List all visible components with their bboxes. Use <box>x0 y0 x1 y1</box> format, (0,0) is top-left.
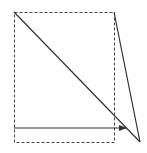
diagonal-line <box>14 12 140 142</box>
dashed-rectangle <box>15 13 115 143</box>
slanted-right-edge-line <box>114 12 140 142</box>
diagram-svg <box>0 0 147 153</box>
diagram-canvas <box>0 0 147 153</box>
